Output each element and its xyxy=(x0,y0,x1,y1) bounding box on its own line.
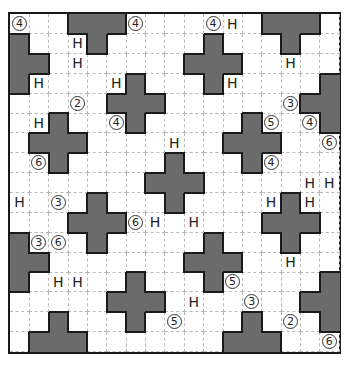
grid-cell[interactable] xyxy=(184,272,204,292)
grid-cell[interactable] xyxy=(184,312,204,332)
grid-cell[interactable] xyxy=(165,113,185,133)
grid-cell[interactable] xyxy=(242,173,262,193)
grid-cell[interactable] xyxy=(49,94,69,114)
grid-cell[interactable] xyxy=(281,74,301,94)
grid-cell[interactable] xyxy=(165,253,185,273)
grid-cell[interactable] xyxy=(87,272,107,292)
grid-cell[interactable] xyxy=(107,173,127,193)
grid-cell[interactable] xyxy=(68,74,88,94)
grid-cell[interactable] xyxy=(49,253,69,273)
grid-cell[interactable] xyxy=(300,153,320,173)
grid-cell[interactable]: H xyxy=(300,193,320,213)
grid-cell[interactable] xyxy=(223,113,243,133)
grid-cell[interactable] xyxy=(165,233,185,253)
grid-cell[interactable] xyxy=(49,292,69,312)
grid-cell[interactable] xyxy=(281,272,301,292)
grid-cell[interactable] xyxy=(281,292,301,312)
grid-cell[interactable] xyxy=(300,312,320,332)
grid-cell[interactable] xyxy=(242,54,262,74)
grid-cell[interactable] xyxy=(184,133,204,153)
grid-cell[interactable] xyxy=(223,213,243,233)
grid-cell[interactable] xyxy=(165,74,185,94)
grid-cell[interactable]: 4 xyxy=(204,14,224,34)
grid-cell[interactable] xyxy=(29,213,49,233)
grid-cell[interactable] xyxy=(165,54,185,74)
grid-cell[interactable] xyxy=(204,213,224,233)
grid-cell[interactable] xyxy=(10,173,30,193)
grid-cell[interactable]: H xyxy=(29,113,49,133)
grid-cell[interactable]: 5 xyxy=(262,113,282,133)
grid-cell[interactable] xyxy=(145,312,165,332)
grid-cell[interactable] xyxy=(145,233,165,253)
grid-cell[interactable] xyxy=(107,54,127,74)
grid-cell[interactable]: H xyxy=(223,74,243,94)
grid-cell[interactable] xyxy=(204,173,224,193)
grid-cell[interactable] xyxy=(87,173,107,193)
grid-cell[interactable]: H xyxy=(68,34,88,54)
grid-cell[interactable] xyxy=(29,312,49,332)
grid-cell[interactable] xyxy=(49,34,69,54)
grid-cell[interactable] xyxy=(223,233,243,253)
grid-cell[interactable] xyxy=(145,14,165,34)
grid-cell[interactable] xyxy=(281,113,301,133)
grid-cell[interactable] xyxy=(49,54,69,74)
grid-cell[interactable] xyxy=(262,292,282,312)
grid-cell[interactable] xyxy=(126,332,146,352)
grid-cell[interactable]: H xyxy=(29,74,49,94)
grid-cell[interactable] xyxy=(320,213,340,233)
grid-cell[interactable] xyxy=(126,193,146,213)
grid-cell[interactable] xyxy=(204,292,224,312)
grid-cell[interactable] xyxy=(281,173,301,193)
grid-cell[interactable] xyxy=(29,34,49,54)
grid-cell[interactable] xyxy=(165,292,185,312)
grid-cell[interactable] xyxy=(126,173,146,193)
grid-cell[interactable] xyxy=(29,14,49,34)
grid-cell[interactable] xyxy=(165,14,185,34)
grid-cell[interactable]: H xyxy=(184,292,204,312)
grid-cell[interactable] xyxy=(300,272,320,292)
grid-cell[interactable] xyxy=(300,133,320,153)
grid-cell[interactable] xyxy=(300,34,320,54)
grid-cell[interactable] xyxy=(223,173,243,193)
grid-cell[interactable] xyxy=(126,253,146,273)
grid-cell[interactable] xyxy=(107,312,127,332)
grid-cell[interactable] xyxy=(87,312,107,332)
grid-cell[interactable] xyxy=(107,332,127,352)
grid-cell[interactable] xyxy=(242,34,262,54)
grid-cell[interactable] xyxy=(184,193,204,213)
grid-cell[interactable] xyxy=(87,253,107,273)
grid-cell[interactable] xyxy=(300,74,320,94)
grid-cell[interactable]: H xyxy=(165,133,185,153)
grid-cell[interactable] xyxy=(184,153,204,173)
grid-cell[interactable] xyxy=(87,153,107,173)
grid-cell[interactable]: 2 xyxy=(68,94,88,114)
grid-cell[interactable] xyxy=(242,233,262,253)
grid-cell[interactable] xyxy=(262,54,282,74)
grid-cell[interactable] xyxy=(49,74,69,94)
grid-cell[interactable]: 4 xyxy=(262,153,282,173)
grid-cell[interactable] xyxy=(165,272,185,292)
grid-cell[interactable] xyxy=(126,34,146,54)
grid-cell[interactable] xyxy=(262,173,282,193)
grid-cell[interactable] xyxy=(49,213,69,233)
grid-cell[interactable] xyxy=(10,213,30,233)
grid-cell[interactable] xyxy=(184,94,204,114)
grid-cell[interactable] xyxy=(126,233,146,253)
grid-cell[interactable] xyxy=(204,193,224,213)
grid-cell[interactable] xyxy=(320,233,340,253)
grid-cell[interactable] xyxy=(68,233,88,253)
grid-cell[interactable] xyxy=(262,312,282,332)
grid-cell[interactable] xyxy=(68,153,88,173)
grid-cell[interactable]: H xyxy=(68,272,88,292)
grid-cell[interactable] xyxy=(87,54,107,74)
grid-cell[interactable] xyxy=(107,253,127,273)
grid-cell[interactable] xyxy=(68,253,88,273)
grid-cell[interactable] xyxy=(262,94,282,114)
grid-cell[interactable] xyxy=(87,113,107,133)
grid-cell[interactable] xyxy=(49,173,69,193)
grid-cell[interactable] xyxy=(165,213,185,233)
grid-cell[interactable]: H xyxy=(49,272,69,292)
grid-cell[interactable] xyxy=(87,133,107,153)
grid-cell[interactable] xyxy=(10,153,30,173)
grid-cell[interactable] xyxy=(281,153,301,173)
